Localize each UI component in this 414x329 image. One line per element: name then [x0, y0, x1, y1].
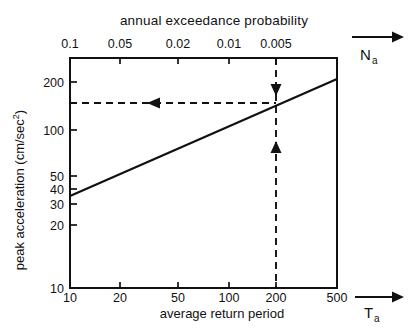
top-axis-variable-label: N — [360, 46, 371, 63]
top-tick-label-1: 0.05 — [108, 37, 132, 51]
x-tick-label-100: 100 — [219, 291, 240, 305]
top-axis-title: annual exceedance probability — [120, 13, 308, 28]
x-axis-variable-label: T — [364, 304, 373, 321]
x-tick-label-200: 200 — [266, 291, 287, 305]
top-tick-label-3: 0.01 — [217, 37, 241, 51]
x-tick-label-500: 500 — [327, 291, 348, 305]
y-tick-label-10: 10 — [50, 282, 64, 296]
x-axis-arrow-head — [392, 292, 404, 303]
y-axis-label-main: peak acceleration (cm/sec — [12, 119, 27, 271]
x-tick-label-50: 50 — [171, 291, 185, 305]
top-tick-label-2: 0.02 — [166, 37, 190, 51]
data-series-line — [70, 79, 337, 196]
y-tick-label-30: 30 — [50, 198, 64, 212]
y-tick-label-50: 50 — [50, 170, 64, 184]
top-axis-variable-subscript: a — [372, 55, 378, 66]
top-axis-arrow-head — [392, 32, 404, 43]
y-tick-label-40: 40 — [50, 183, 64, 197]
x-tick-label-10: 10 — [63, 291, 77, 305]
y-axis-label: peak acceleration (cm/sec2) — [11, 110, 27, 270]
chart-canvas: annual exceedance probability 0.1 0.05 0… — [0, 0, 414, 329]
top-tick-label-0: 0.1 — [61, 37, 78, 51]
x-axis-label: average return period — [160, 306, 284, 321]
y-axis-label-group: peak acceleration (cm/sec2) — [11, 110, 27, 270]
seismic-hazard-chart: annual exceedance probability 0.1 0.05 0… — [0, 0, 414, 329]
x-tick-label-20: 20 — [113, 291, 127, 305]
y-tick-label-200: 200 — [43, 76, 64, 90]
guide-arrow-down-icon — [271, 84, 282, 96]
guide-arrow-left-icon — [147, 98, 160, 109]
x-axis-variable-subscript: a — [374, 313, 380, 324]
y-axis-label-close: ) — [12, 110, 27, 114]
y-tick-label-100: 100 — [43, 124, 64, 138]
y-tick-label-20: 20 — [50, 219, 64, 233]
guide-arrow-up-icon — [271, 141, 282, 153]
top-tick-label-4: 0.005 — [260, 37, 291, 51]
